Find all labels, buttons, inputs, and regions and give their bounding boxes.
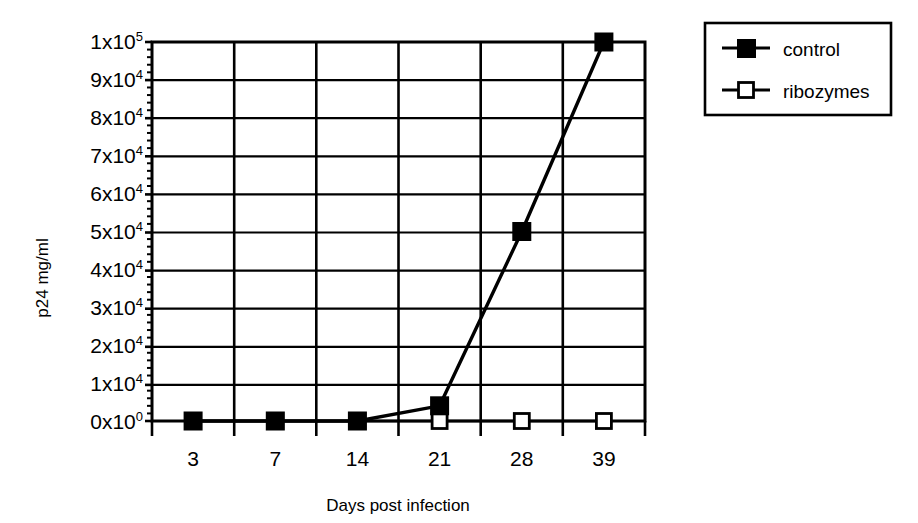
x-tick-label: 28 — [510, 447, 533, 470]
data-point-marker-ribozymes — [596, 414, 611, 429]
x-tick-label: 7 — [269, 447, 281, 470]
data-point-marker-control — [595, 34, 612, 51]
y-tick-label: 2x104 — [90, 333, 143, 357]
x-tick-label: 21 — [428, 447, 451, 470]
y-tick-label: 9x104 — [90, 67, 143, 91]
y-tick-label: 8x104 — [90, 105, 143, 129]
x-tick-label: 39 — [592, 447, 615, 470]
legend-label-ribozymes: ribozymes — [783, 81, 870, 102]
line-chart-svg: 1x105 9x104 8x104 7x104 6x104 5x104 4x10… — [0, 0, 918, 523]
y-axis-tick-labels: 1x105 9x104 8x104 7x104 6x104 5x104 4x10… — [90, 29, 143, 433]
data-point-marker-ribozymes — [432, 414, 447, 429]
y-tick-label: 6x104 — [90, 181, 143, 205]
y-tick-label: 7x104 — [90, 143, 143, 167]
data-point-marker-control — [267, 413, 284, 430]
legend-entry-ribozymes[interactable]: ribozymes — [722, 81, 870, 102]
data-point-marker-control — [431, 397, 448, 414]
chart-legend: control ribozymes — [705, 23, 891, 115]
legend-marker-filled-square-icon — [738, 40, 755, 57]
y-tick-label: 4x104 — [90, 257, 143, 281]
x-tick-label: 3 — [187, 447, 199, 470]
y-tick-label: 0x100 — [90, 409, 143, 433]
x-tick-label: 14 — [346, 447, 370, 470]
x-axis-title: Days post infection — [326, 496, 470, 515]
y-tick-label: 5x104 — [90, 219, 143, 243]
y-tick-label: 1x105 — [90, 29, 143, 53]
legend-marker-open-square-icon — [739, 83, 754, 98]
chart-figure: 1x105 9x104 8x104 7x104 6x104 5x104 4x10… — [0, 0, 918, 523]
y-tick-label: 3x104 — [90, 295, 143, 319]
data-point-marker-ribozymes — [514, 414, 529, 429]
data-point-marker-control — [349, 413, 366, 430]
data-point-marker-control — [513, 223, 530, 240]
y-axis-title: p24 mg/ml — [33, 238, 52, 317]
data-point-marker-control — [185, 413, 202, 430]
legend-label-control: control — [783, 39, 840, 60]
y-tick-label: 1x104 — [90, 371, 143, 395]
